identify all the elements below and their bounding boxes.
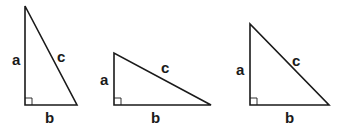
right-angle-marker (25, 98, 32, 105)
triangle-outline (25, 6, 77, 105)
triangle-tall: a b c (12, 6, 77, 126)
side-label-b: b (151, 109, 160, 126)
side-label-c: c (161, 59, 169, 76)
side-label-a: a (236, 61, 245, 78)
side-label-c: c (57, 48, 65, 65)
right-angle-marker (114, 98, 121, 105)
triangle-wide: a b c (100, 53, 211, 126)
right-triangles-diagram: a b c a b c a b c (0, 0, 343, 127)
triangle-isosceles: a b c (236, 24, 329, 126)
right-angle-marker (250, 98, 257, 105)
side-label-b: b (285, 109, 294, 126)
side-label-a: a (12, 51, 21, 68)
side-label-a: a (100, 71, 109, 88)
triangle-outline (250, 24, 329, 105)
side-label-c: c (292, 52, 300, 69)
side-label-b: b (45, 109, 54, 126)
